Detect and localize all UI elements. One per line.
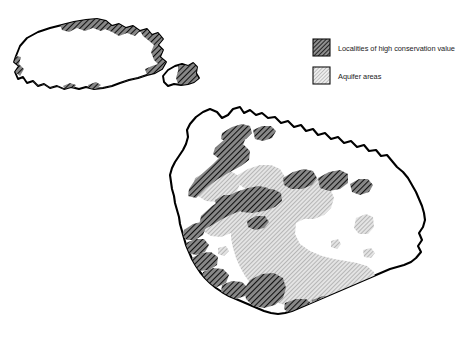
legend-label-conservation: Localities of high conservation value xyxy=(338,44,455,53)
malta-islands-map-svg: Localities of high conservation value Aq… xyxy=(0,0,461,337)
legend-label-aquifer: Aquifer areas xyxy=(338,72,382,81)
map-figure: Localities of high conservation value Aq… xyxy=(0,0,461,337)
legend-swatch-conservation xyxy=(313,39,330,56)
legend-swatch-aquifer xyxy=(313,67,330,84)
